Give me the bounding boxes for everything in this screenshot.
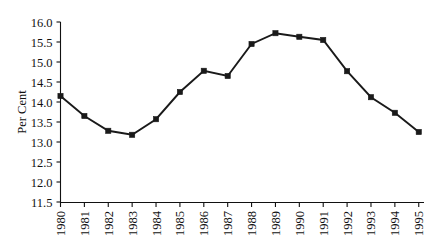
x-tick-label: 1989 xyxy=(269,211,283,236)
data-point-marker xyxy=(153,117,158,122)
y-tick-label: 13.5 xyxy=(31,116,53,130)
y-tick-label: 13.0 xyxy=(31,136,53,150)
x-tick-label: 1988 xyxy=(245,211,259,236)
data-point-marker xyxy=(368,95,373,100)
data-point-marker xyxy=(321,37,326,42)
data-point-marker xyxy=(345,69,350,74)
y-tick-label: 15.0 xyxy=(31,56,53,70)
x-tick-label: 1983 xyxy=(126,211,140,236)
x-axis: 1980198119821983198419851986198719881989… xyxy=(54,202,426,236)
data-point-marker xyxy=(225,73,230,78)
data-point-marker xyxy=(249,41,254,46)
y-axis-ticks xyxy=(57,22,61,202)
y-tick-label: 14.5 xyxy=(31,76,53,90)
y-tick-label: 12.0 xyxy=(31,176,53,190)
data-point-marker xyxy=(58,93,63,98)
data-markers xyxy=(58,31,421,138)
data-point-marker xyxy=(392,110,397,115)
x-tick-label: 1981 xyxy=(78,211,92,236)
y-axis-title: Per Cent xyxy=(15,90,29,134)
x-tick-label: 1992 xyxy=(341,211,355,236)
data-line-per-cent xyxy=(61,33,419,135)
data-point-marker xyxy=(297,34,302,39)
data-point-marker xyxy=(82,113,87,118)
x-tick-label: 1980 xyxy=(54,211,68,236)
x-tick-label: 1986 xyxy=(197,211,211,236)
y-tick-label: 16.0 xyxy=(31,16,53,30)
data-point-marker xyxy=(416,129,421,134)
data-point-marker xyxy=(273,31,278,36)
x-axis-tick-labels: 1980198119821983198419851986198719881989… xyxy=(54,210,426,236)
y-tick-label: 11.5 xyxy=(31,196,52,210)
x-tick-label: 1982 xyxy=(102,211,116,236)
data-point-marker xyxy=(106,128,111,133)
chart-canvas: 16.015.515.014.514.013.513.012.512.011.5… xyxy=(0,0,439,251)
data-point-marker xyxy=(201,68,206,73)
x-tick-label: 1990 xyxy=(293,211,307,236)
x-tick-label: 1994 xyxy=(388,210,402,236)
y-axis-tick-labels: 16.015.515.014.514.013.513.012.512.011.5 xyxy=(31,16,53,210)
plot-area xyxy=(58,31,421,138)
x-tick-label: 1985 xyxy=(173,211,187,236)
y-tick-label: 15.5 xyxy=(31,36,53,50)
x-tick-label: 1987 xyxy=(221,211,235,236)
y-axis-title-text: Per Cent xyxy=(15,90,29,134)
y-tick-label: 12.5 xyxy=(31,156,53,170)
x-tick-label: 1995 xyxy=(412,211,426,236)
data-point-marker xyxy=(177,89,182,94)
chart-screenshot: 16.015.515.014.514.013.513.012.512.011.5… xyxy=(0,0,439,251)
x-tick-label: 1984 xyxy=(150,210,164,236)
data-point-marker xyxy=(130,132,135,137)
x-tick-label: 1993 xyxy=(364,211,378,236)
x-tick-label: 1991 xyxy=(317,211,331,236)
line-chart-figure: 16.015.515.014.514.013.513.012.512.011.5… xyxy=(0,0,439,251)
y-tick-label: 14.0 xyxy=(31,96,53,110)
y-axis: 16.015.515.014.514.013.513.012.512.011.5 xyxy=(31,16,61,210)
